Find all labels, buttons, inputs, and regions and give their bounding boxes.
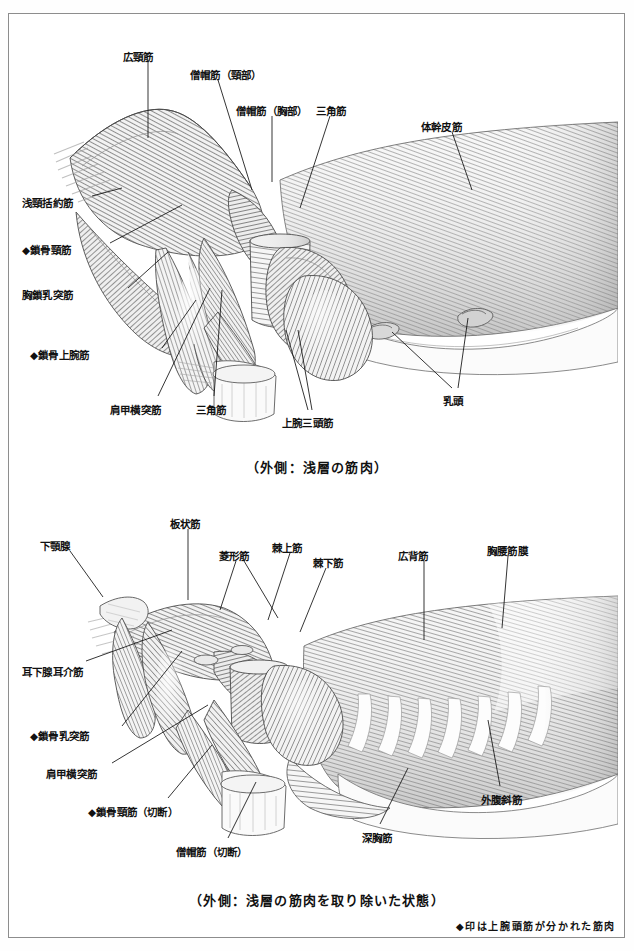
deep-muscle-drawing bbox=[18, 560, 618, 880]
anatomy-label: 乳頭 bbox=[443, 396, 463, 408]
anatomy-label: 僧帽筋（切断） bbox=[176, 847, 247, 859]
anatomy-label: 肩甲横突筋 bbox=[110, 405, 161, 417]
anatomy-label: 菱形筋 bbox=[219, 551, 250, 563]
anatomy-label: 棘上筋 bbox=[272, 543, 303, 555]
anatomy-label: 肩甲横突筋 bbox=[46, 769, 97, 781]
anatomy-label: 上腕三頭筋 bbox=[282, 418, 333, 430]
anatomy-label: 三角筋 bbox=[196, 405, 227, 417]
illustration-deep bbox=[18, 560, 618, 880]
caption-panel-2: （外側：浅層の筋肉を取り除いた状態） bbox=[0, 890, 634, 909]
anatomy-label: 僧帽筋（胸部） bbox=[236, 106, 307, 118]
anatomy-label: 耳下腺耳介筋 bbox=[22, 667, 83, 679]
anatomy-label: 僧帽筋（頸部） bbox=[190, 70, 261, 82]
anatomy-label: 広頸筋 bbox=[123, 52, 154, 64]
caption-panel-1: （外側：浅層の筋肉） bbox=[0, 457, 634, 476]
anatomy-plate-page: 広頸筋僧帽筋（頸部）僧帽筋（胸部）三角筋体幹皮筋浅頸括約筋◆鎖骨頸筋胸鎖乳突筋◆… bbox=[0, 0, 634, 951]
anatomy-label: 下顎腺 bbox=[40, 541, 71, 553]
anatomy-label: ◆鎖骨頸筋（切断） bbox=[88, 807, 178, 819]
anatomy-label: 体幹皮筋 bbox=[421, 122, 462, 134]
anatomy-label: 外腹斜筋 bbox=[481, 795, 522, 807]
anatomy-label: 胸鎖乳突筋 bbox=[22, 290, 73, 302]
anatomy-label: 胸腰筋膜 bbox=[487, 546, 528, 558]
anatomy-label: 深胸筋 bbox=[362, 833, 393, 845]
anatomy-label: 棘下筋 bbox=[313, 558, 344, 570]
footnote: ◆印は上腕頭筋が分かれた筋肉 bbox=[456, 918, 616, 933]
anatomy-label: 広背筋 bbox=[398, 551, 429, 563]
anatomy-label: ◆鎖骨頸筋 bbox=[22, 245, 71, 257]
anatomy-label: ◆鎖骨乳突筋 bbox=[30, 731, 89, 743]
anatomy-label: 板状筋 bbox=[170, 519, 201, 531]
anatomy-label: ◆鎖骨上腕筋 bbox=[30, 350, 89, 362]
anatomy-label: 三角筋 bbox=[316, 106, 347, 118]
anatomy-label: 浅頸括約筋 bbox=[22, 198, 73, 210]
